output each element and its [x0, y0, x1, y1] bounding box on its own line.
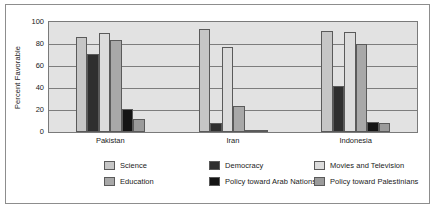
y-tick-100: 100: [31, 17, 44, 26]
bar: [256, 130, 268, 132]
bar: [245, 130, 257, 132]
legend-item[interactable]: Policy toward Arab Nations: [209, 177, 316, 186]
legend-item[interactable]: Science: [104, 161, 147, 170]
legend-swatch-icon: [314, 177, 325, 186]
legend-swatch-icon: [104, 161, 115, 170]
bar: [333, 86, 345, 132]
bar: [210, 123, 222, 132]
legend-item[interactable]: Movies and Television: [314, 161, 404, 170]
bar: [110, 40, 122, 132]
chart-figure: Percent Favorable 020406080100 PakistanI…: [5, 4, 430, 204]
y-tick-40: 40: [36, 83, 44, 92]
bar-series-container: [49, 22, 417, 132]
x-axis-tick-labels: PakistanIranIndonesia: [48, 136, 418, 150]
y-tick-60: 60: [36, 61, 44, 70]
legend-item[interactable]: Education: [104, 177, 154, 186]
chart-legend: ScienceEducationDemocracyPolicy toward A…: [6, 155, 431, 203]
bar: [87, 54, 99, 132]
legend-label: Policy toward Arab Nations: [225, 177, 316, 186]
legend-label: Science: [120, 161, 147, 170]
bar: [99, 33, 111, 132]
bar: [356, 44, 368, 132]
bar: [222, 47, 234, 132]
legend-item[interactable]: Policy toward Palestinians: [314, 177, 418, 186]
y-tick-80: 80: [36, 39, 44, 48]
x-tick-iran: Iran: [227, 136, 240, 145]
legend-swatch-icon: [314, 161, 325, 170]
x-tick-pakistan: Pakistan: [96, 136, 125, 145]
legend-swatch-icon: [209, 161, 220, 170]
plot-region: Percent Favorable 020406080100 PakistanI…: [6, 5, 431, 157]
bar: [199, 29, 211, 132]
bar: [76, 37, 88, 132]
bar: [233, 106, 245, 132]
legend-label: Movies and Television: [330, 161, 404, 170]
legend-swatch-icon: [209, 177, 220, 186]
y-tick-0: 0: [40, 127, 44, 136]
bar: [133, 119, 145, 132]
plot-area: [48, 21, 418, 133]
bar: [367, 122, 379, 132]
bar-group-pakistan: [76, 22, 145, 132]
bar: [122, 109, 134, 132]
legend-label: Democracy: [225, 161, 263, 170]
legend-label: Education: [120, 177, 154, 186]
legend-swatch-icon: [104, 177, 115, 186]
bar-group-indonesia: [321, 22, 390, 132]
y-axis-tick-labels: 020406080100: [22, 19, 46, 135]
bar: [344, 32, 356, 132]
y-tick-20: 20: [36, 105, 44, 114]
bar: [321, 31, 333, 132]
legend-item[interactable]: Democracy: [209, 161, 263, 170]
x-tick-indonesia: Indonesia: [339, 136, 372, 145]
bar-group-iran: [199, 22, 268, 132]
legend-label: Policy toward Palestinians: [330, 177, 418, 186]
bar: [379, 123, 391, 132]
